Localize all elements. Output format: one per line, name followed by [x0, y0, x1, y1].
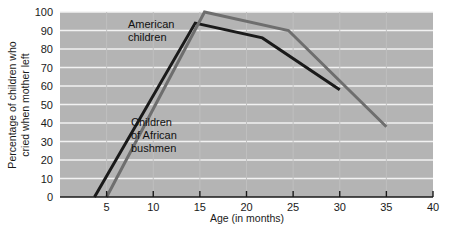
african-bushmen-label-line-2: bushmen: [131, 142, 176, 154]
y-tick-label-30: 30: [41, 136, 53, 148]
line-chart: 510152025303540 1009080706050403020100 A…: [0, 0, 450, 237]
x-tick-label-30: 30: [334, 201, 346, 213]
y-tick-label-90: 90: [41, 25, 53, 37]
y-tick-label-10: 10: [41, 173, 53, 185]
x-tick-label-10: 10: [147, 201, 159, 213]
american-children-label-line-1: children: [128, 31, 167, 43]
x-tick-label-15: 15: [194, 201, 206, 213]
x-axis-title: Age (in months): [210, 212, 284, 224]
y-tick-label-50: 50: [41, 99, 53, 111]
american-children-label-line-0: American: [128, 18, 174, 30]
x-tick-label-5: 5: [104, 201, 110, 213]
y-tick-label-20: 20: [41, 154, 53, 166]
african-bushmen-label-line-0: Children: [131, 116, 172, 128]
y-tick-label-60: 60: [41, 80, 53, 92]
y-tick-label-80: 80: [41, 43, 53, 55]
x-tick-label-40: 40: [427, 201, 439, 213]
y-tick-labels-group: 1009080706050403020100: [35, 6, 53, 203]
x-tick-label-35: 35: [380, 201, 392, 213]
y-tick-label-100: 100: [35, 6, 53, 18]
chart-container: 510152025303540 1009080706050403020100 A…: [0, 0, 450, 237]
y-tick-label-40: 40: [41, 117, 53, 129]
african-bushmen-label-line-1: of African: [131, 129, 177, 141]
y-tick-label-0: 0: [47, 191, 53, 203]
y-axis-title-line2: cried when mother left: [19, 53, 31, 156]
y-tick-label-70: 70: [41, 62, 53, 74]
y-axis-title-line1: Percentage of children who: [6, 41, 18, 168]
x-tick-label-25: 25: [287, 201, 299, 213]
y-axis-title: Percentage of children who cried when mo…: [6, 41, 31, 168]
african-bushmen-label: Childrenof Africanbushmen: [131, 116, 177, 154]
